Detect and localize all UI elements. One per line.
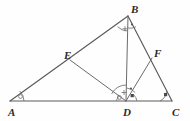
vertex-label-E: E bbox=[63, 49, 71, 61]
diagram-canvas: A B C D E F bbox=[0, 0, 190, 121]
mark-dot-B bbox=[131, 24, 133, 26]
vertex-label-C: C bbox=[172, 106, 180, 118]
vertex-label-D: D bbox=[122, 106, 131, 118]
angle-arcs bbox=[20, 27, 167, 101]
vertex-label-A: A bbox=[7, 106, 15, 118]
triangle-sides bbox=[10, 16, 172, 101]
angle-mark-glyphs bbox=[19, 24, 168, 100]
vertex-label-B: B bbox=[130, 3, 138, 15]
geometry-figure: A B C D E F bbox=[0, 0, 190, 121]
mark-square-D-right bbox=[131, 94, 134, 97]
vertex-label-F: F bbox=[153, 47, 162, 59]
mark-square-C bbox=[164, 93, 167, 96]
cevian-ED bbox=[70, 60, 126, 101]
mark-circle-A bbox=[19, 95, 23, 99]
cevian-FD bbox=[126, 58, 152, 101]
side-BC bbox=[128, 16, 172, 101]
mark-dot-D bbox=[130, 88, 132, 90]
angle-arc-D-right bbox=[133, 95, 137, 102]
